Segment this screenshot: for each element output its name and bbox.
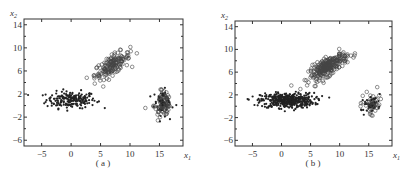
x-axis-label: x1 — [183, 150, 191, 161]
y-tick-label: −6 — [223, 135, 233, 145]
y-tick-label: −2 — [12, 112, 22, 122]
y-tick-label: 10 — [13, 43, 23, 53]
plot-frame — [24, 19, 183, 146]
x-tick-label: 10 — [126, 149, 136, 159]
panel-caption: ( b ) — [306, 158, 321, 168]
y-tick-label: 2 — [18, 89, 23, 99]
y-axis-label: x2 — [9, 8, 17, 19]
y-tick-label: −6 — [12, 135, 22, 145]
y-tick-label: 6 — [229, 67, 234, 77]
x-tick-label: −5 — [248, 149, 258, 159]
y-tick-label: 14 — [13, 20, 23, 30]
figure: −5051015−6−2261014x1x2( a )−5051015−6−22… — [0, 0, 400, 179]
plot-frame — [235, 21, 392, 146]
y-tick-label: 10 — [224, 44, 234, 54]
y-tick-label: 6 — [18, 66, 23, 76]
x-tick-label: 10 — [335, 149, 345, 159]
scatter-panel-b: −5051015−6−2261014x1x2( b ) — [220, 10, 400, 168]
x-tick-label: 15 — [155, 149, 165, 159]
y-tick-label: 14 — [224, 22, 234, 32]
x-tick-label: −5 — [37, 149, 47, 159]
y-tick-label: −2 — [223, 113, 233, 123]
scatter-panel-a: −5051015−6−2261014x1x2( a ) — [9, 8, 191, 168]
x-axis-label: x1 — [392, 150, 400, 161]
y-tick-label: 2 — [229, 90, 234, 100]
data-points — [27, 45, 177, 122]
panel-caption: ( a ) — [96, 158, 111, 168]
x-tick-label: 15 — [364, 149, 374, 159]
y-axis-label: x2 — [220, 10, 228, 21]
data-points — [246, 47, 382, 117]
x-tick-label: 0 — [69, 149, 74, 159]
x-tick-label: 0 — [279, 149, 284, 159]
